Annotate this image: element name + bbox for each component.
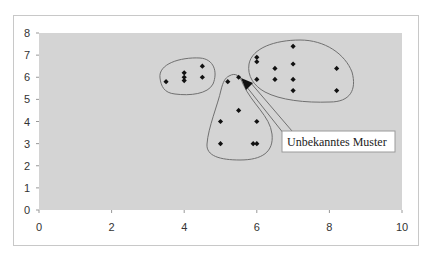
- x-tick-label: 4: [181, 221, 187, 233]
- y-tick-label: 2: [24, 160, 30, 172]
- y-tick-label: 5: [24, 93, 30, 105]
- callout-label: Unbekanntes Muster: [287, 135, 387, 149]
- y-axis: 012345678: [24, 27, 39, 216]
- x-tick-label: 10: [396, 221, 408, 233]
- y-tick-label: 3: [24, 138, 30, 150]
- y-tick-label: 4: [24, 116, 30, 128]
- y-tick-label: 8: [24, 27, 30, 39]
- x-tick-label: 8: [326, 221, 332, 233]
- y-tick-label: 1: [24, 182, 30, 194]
- x-tick-label: 2: [109, 221, 115, 233]
- scatter-chart: 012345678 0246810 Unbekanntes Muster: [0, 0, 428, 255]
- x-tick-label: 0: [36, 221, 42, 233]
- y-tick-label: 6: [24, 71, 30, 83]
- x-axis: 0246810: [36, 210, 408, 233]
- y-tick-label: 0: [24, 204, 30, 216]
- y-tick-label: 7: [24, 49, 30, 61]
- x-tick-label: 6: [254, 221, 260, 233]
